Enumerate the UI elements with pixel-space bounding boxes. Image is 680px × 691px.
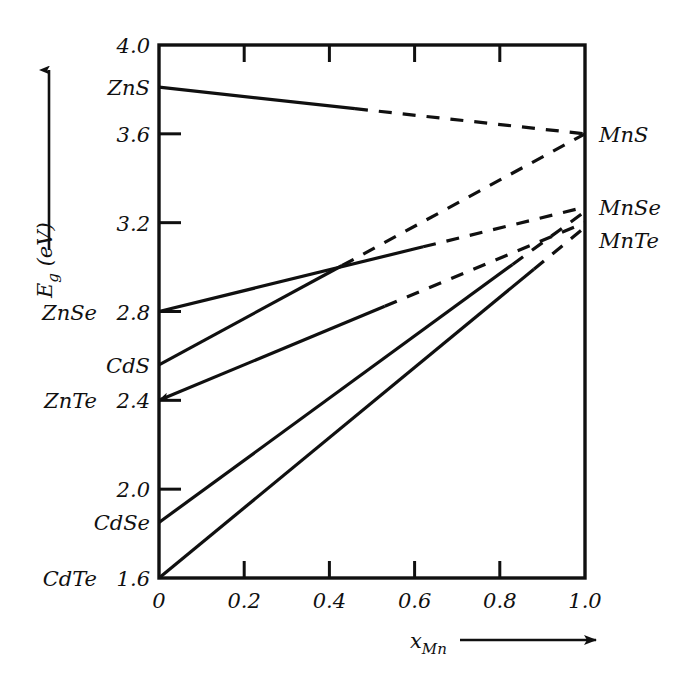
x-tick-label: 0.2	[227, 589, 260, 613]
y-axis-title-text: Eg (eV)	[33, 222, 62, 299]
left-material-label: ZnSe	[41, 301, 97, 325]
x-axis-title: xMn	[410, 629, 596, 658]
x-axis-title-sub: Mn	[421, 640, 447, 658]
y-tick-label: 3.6	[117, 123, 150, 147]
x-tick-label: 0	[152, 589, 165, 613]
left-material-label: CdTe	[43, 567, 97, 591]
x-axis-title-base: x	[410, 629, 422, 653]
y-axis-tick-labels: 1.62.02.42.83.23.64.0	[116, 34, 150, 591]
y-tick-label: 2.4	[116, 389, 150, 413]
y-axis-title: Eg (eV)	[33, 222, 62, 299]
right-material-label: MnTe	[598, 229, 659, 253]
y-axis-title-base: E	[33, 283, 57, 299]
x-axis-tick-labels: 00.20.40.60.81.0	[152, 589, 601, 613]
band-gap-chart: 00.20.40.60.81.0 1.62.02.42.83.23.64.0 Z…	[0, 0, 680, 691]
x-tick-label: 1.0	[568, 589, 601, 613]
y-tick-label: 3.2	[117, 212, 150, 236]
x-tick-label: 0.4	[313, 589, 346, 613]
figure-container: 00.20.40.60.81.0 1.62.02.42.83.23.64.0 Z…	[0, 0, 680, 691]
x-tick-label: 0.6	[398, 589, 431, 613]
series-dashed-segment	[534, 227, 585, 269]
series-solid-segment	[159, 306, 385, 400]
y-tick-label: 4.0	[116, 34, 150, 58]
y-axis-title-sub: g	[44, 273, 62, 283]
series-CdTe-MnTe	[159, 227, 585, 578]
series-dashed-segment	[423, 207, 585, 247]
x-axis-ticks-bottom	[244, 561, 500, 578]
y-axis-title-unit: (eV)	[33, 222, 57, 273]
y-tick-label: 1.6	[117, 567, 150, 591]
series-solid-segment	[159, 87, 355, 108]
series-solid-segment	[159, 247, 423, 312]
x-tick-label: 0.8	[483, 589, 516, 613]
left-material-label: CdS	[106, 354, 150, 378]
series-dashed-segment	[342, 134, 585, 266]
left-material-label: CdSe	[94, 511, 150, 535]
series-line-group	[159, 87, 585, 578]
y-tick-label: 2.0	[116, 478, 150, 502]
right-material-label: MnSe	[598, 196, 661, 220]
series-ZnS-MnS	[159, 87, 585, 134]
series-solid-segment	[159, 269, 534, 578]
y-tick-label: 2.8	[116, 301, 150, 325]
right-material-label: MnS	[598, 123, 648, 147]
right-material-labels: MnSMnSeMnTe	[598, 123, 661, 254]
series-dashed-segment	[355, 109, 585, 134]
x-axis-title-text: xMn	[410, 629, 447, 658]
series-solid-segment	[159, 265, 342, 364]
series-solid-segment	[159, 264, 513, 522]
x-axis-ticks-top	[244, 45, 500, 62]
left-material-labels: ZnSZnSeCdSZnTeCdSeCdTe	[41, 76, 150, 591]
left-material-label: ZnTe	[43, 389, 97, 413]
left-material-label: ZnS	[106, 76, 150, 100]
